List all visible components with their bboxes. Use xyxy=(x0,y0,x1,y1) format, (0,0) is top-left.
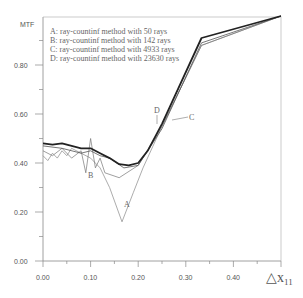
x-tick-label: 0.00 xyxy=(36,274,50,281)
mtf-chart: 0.000.200.400.600.80 0.000.100.200.300.4… xyxy=(0,0,303,298)
y-tick-label: 0.80 xyxy=(14,62,28,69)
annotation-b: B xyxy=(88,171,93,180)
y-ticks: 0.000.200.400.600.80 xyxy=(14,41,43,265)
legend-entry: A: ray-countinf method with 50 rays xyxy=(50,27,167,36)
y-tick-label: 0.20 xyxy=(14,209,28,216)
x-tick-label: 0.30 xyxy=(179,274,193,281)
y-tick-label: 0.00 xyxy=(14,258,28,265)
y-tick-label: 0.60 xyxy=(14,111,28,118)
y-tick-label: 0.40 xyxy=(14,160,28,167)
legend: A: ray-countinf method with 50 raysB: ra… xyxy=(50,27,179,63)
legend-entry: C: ray-countinf method with 4933 rays xyxy=(50,45,175,54)
legend-entry: B: ray-countinf method with 142 rays xyxy=(50,36,171,45)
x-tick-label: 0.10 xyxy=(84,274,98,281)
x-tick-label: 0.40 xyxy=(226,274,240,281)
annotation-d: D xyxy=(154,106,160,115)
x-ticks: 0.000.100.200.300.40 xyxy=(36,261,281,281)
annotation-c-leader xyxy=(172,117,188,120)
annotation-c: C xyxy=(189,113,194,122)
x-tick-label: 0.20 xyxy=(131,274,145,281)
x-axis-label: △x11 xyxy=(266,270,293,287)
y-axis-label: MTF xyxy=(20,21,34,28)
annotation-a: A xyxy=(124,200,130,209)
legend-entry: D: ray-countinf method with 23630 rays xyxy=(50,54,179,63)
